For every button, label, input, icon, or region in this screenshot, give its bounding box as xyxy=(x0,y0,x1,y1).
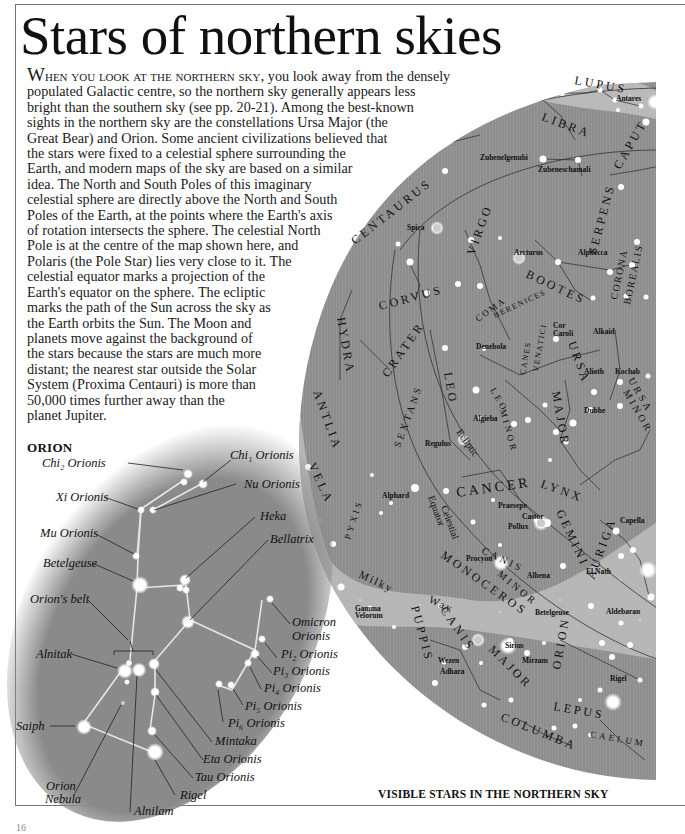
label-omicron-orionis-2: Orionis xyxy=(292,629,330,643)
label-chi2-orionis: Chi₂ Orionis xyxy=(42,456,106,470)
label-orion-nebula: Orion xyxy=(46,779,76,793)
label-alnilam: Alnilam xyxy=(133,804,174,818)
label-pi5-orionis: Pi₅ Orionis xyxy=(244,699,302,713)
label-orion-nebula-2: Nebula xyxy=(44,792,81,806)
label-pi2-orionis: Pi₂ Orionis xyxy=(280,647,338,661)
label-mu-orionis: Mu Orionis xyxy=(39,526,98,540)
label-bellatrix: Bellatrix xyxy=(270,532,314,546)
label-pi6-orionis: Pi₆ Orionis xyxy=(227,716,285,730)
label-saiph: Saiph xyxy=(16,719,44,733)
orion-heading: ORION xyxy=(27,440,73,456)
label-omicron-orionis: Omicron xyxy=(292,615,336,629)
label-alnitak: Alnitak xyxy=(35,647,73,661)
label-nu-orionis: Nu Orionis xyxy=(243,477,300,491)
label-pi3-orionis: Pi₃ Orionis xyxy=(272,664,330,678)
label-tau-orionis: Tau Orionis xyxy=(195,770,255,784)
label-xi-orionis: Xi Orionis xyxy=(55,490,109,504)
label-pi4-orionis: Pi₄ Orionis xyxy=(263,681,321,695)
label-rigel: Rigel xyxy=(179,788,207,802)
label-betelgeuse: Betelgeuse xyxy=(43,556,98,570)
label-orions-belt: Orion's belt xyxy=(30,592,90,606)
label-eta-orionis: Eta Orionis xyxy=(202,752,262,766)
label-heka: Heka xyxy=(259,509,286,523)
label-chi1-orionis: Chi₁ Orionis xyxy=(230,448,294,462)
label-mintaka: Mintaka xyxy=(214,734,257,748)
